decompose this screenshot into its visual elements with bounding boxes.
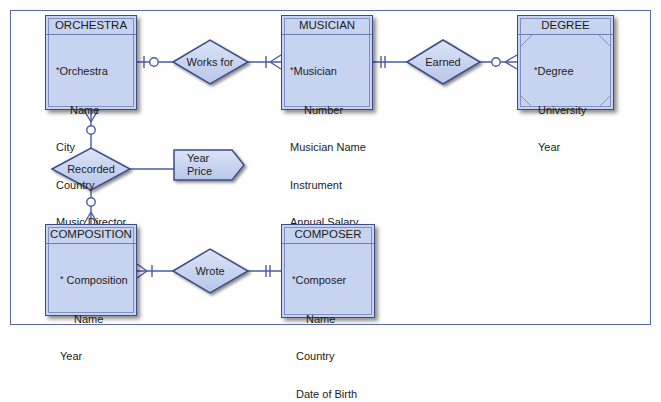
recorded-attr-year: Year bbox=[187, 152, 212, 165]
attribute: Musician Name bbox=[290, 141, 366, 154]
entity-composition: COMPOSITION * Composition Name Year bbox=[45, 224, 137, 316]
entity-attributes: *Composer Name Country Date of Birth bbox=[292, 249, 357, 402]
attribute: Year bbox=[60, 350, 128, 363]
entity-title: DEGREE bbox=[518, 16, 613, 35]
attribute-text: Orchestra bbox=[60, 65, 108, 77]
attribute: Country bbox=[292, 350, 357, 363]
relationship-label-works-for: Works for bbox=[187, 56, 234, 68]
entity-title: ORCHESTRA bbox=[46, 16, 136, 35]
attribute-pk: *Degree bbox=[534, 65, 586, 79]
pk-marker: * bbox=[292, 274, 296, 284]
pk-marker: * bbox=[56, 65, 60, 75]
attribute: Instrument bbox=[290, 179, 366, 192]
pk-marker: * bbox=[60, 274, 64, 284]
entity-composer: COMPOSER *Composer Name Country Date of … bbox=[281, 224, 375, 318]
entity-orchestra: ORCHESTRA *Orchestra Name City Country M… bbox=[45, 15, 137, 110]
attribute: City bbox=[56, 141, 126, 154]
relationship-label-earned: Earned bbox=[425, 56, 460, 68]
attribute: Country bbox=[56, 179, 126, 192]
attribute-text: Degree bbox=[538, 65, 574, 77]
recorded-attr-price: Price bbox=[187, 165, 212, 178]
entity-musician: MUSICIAN *Musician Number Musician Name … bbox=[281, 15, 373, 110]
attribute: Date of Birth bbox=[292, 388, 357, 401]
attribute-text: Composer bbox=[296, 274, 347, 286]
attribute: Name bbox=[292, 313, 357, 326]
pk-marker: * bbox=[534, 65, 538, 75]
entity-attributes: * Composition Name Year bbox=[60, 249, 128, 388]
attribute: Name bbox=[56, 104, 126, 117]
entity-title: COMPOSITION bbox=[46, 225, 136, 244]
attribute: Name bbox=[60, 313, 128, 326]
attribute: Year bbox=[534, 141, 586, 154]
entity-attributes: *Orchestra Name City Country Music Direc… bbox=[56, 40, 126, 254]
pk-marker: * bbox=[290, 65, 294, 75]
recorded-attributes: Year Price bbox=[187, 152, 212, 178]
attribute: University bbox=[534, 104, 586, 117]
attribute-text: Musician bbox=[294, 65, 337, 77]
attribute-pk: *Composer bbox=[292, 274, 357, 288]
entity-title: COMPOSER bbox=[282, 225, 374, 244]
attribute-pk: *Musician bbox=[290, 65, 366, 79]
entity-attributes: *Musician Number Musician Name Instrumen… bbox=[290, 40, 366, 254]
attribute-text: Composition bbox=[67, 274, 128, 286]
entity-title: MUSICIAN bbox=[282, 16, 372, 35]
relationship-label-wrote: Wrote bbox=[195, 265, 224, 277]
attribute: Number bbox=[290, 104, 366, 117]
attribute-pk: *Orchestra bbox=[56, 65, 126, 79]
attribute-pk: * Composition bbox=[60, 274, 128, 288]
entity-attributes: *Degree University Year bbox=[534, 40, 586, 179]
entity-degree: DEGREE *Degree University Year bbox=[517, 15, 614, 110]
